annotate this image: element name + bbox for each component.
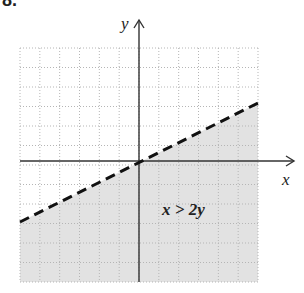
x-axis-label: x <box>282 170 290 190</box>
inequality-label: x > 2y <box>162 200 205 220</box>
y-axis-label: y <box>121 14 129 34</box>
inequality-graph <box>0 0 304 293</box>
